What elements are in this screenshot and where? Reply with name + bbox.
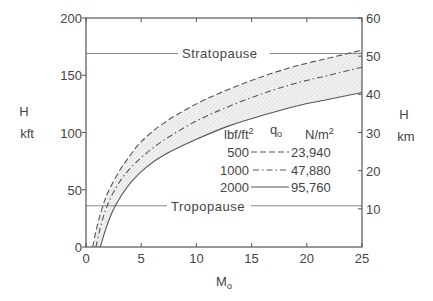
x-title-subscript: o [227, 281, 232, 291]
y-left-tick-label: 0 [75, 240, 82, 255]
tropopause-label: Tropopause [171, 199, 245, 214]
y-left-tick-label: 50 [68, 183, 82, 198]
legend-title-subscript: o [277, 129, 282, 139]
y-right-tick-label: 30 [366, 126, 380, 141]
legend-entry-500-right: 23,940 [291, 145, 331, 160]
chart: StratopauseTropopause 0510152025 0501001… [0, 0, 433, 301]
y-left-tick-label: 100 [60, 126, 82, 141]
stratopause-label: Stratopause [182, 46, 258, 61]
y-right-tick-label: 50 [366, 49, 380, 64]
x-tick-label: 15 [244, 251, 258, 266]
y-right-tick-label: 60 [366, 11, 380, 26]
x-tick-label: 10 [189, 251, 203, 266]
legend-entry-2000-right: 95,760 [291, 180, 331, 195]
y-right-title-unit: km [397, 129, 414, 144]
x-title-symbol: M [216, 274, 227, 289]
x-tick-label: 5 [138, 251, 145, 266]
y-right-ticks-layer: 102030405060 [358, 11, 380, 217]
y-left-ticks-layer: 050100150200 [60, 11, 86, 255]
y-left-tick-label: 200 [60, 11, 82, 26]
y-right-tick-label: 10 [366, 202, 380, 217]
legend-title-symbol: q [270, 122, 277, 137]
y-left-tick-label: 150 [60, 68, 82, 83]
legend: qo lbf/ft2 N/m2 500 23,940 1000 47,880 2… [220, 122, 334, 195]
x-tick-label: 20 [300, 251, 314, 266]
legend-entry-1000-right: 47,880 [291, 163, 331, 178]
legend-header-left: lbf/ft2 [224, 126, 254, 142]
legend-entry-500-left: 500 [227, 145, 249, 160]
y-right-title-symbol: H [399, 107, 408, 122]
y-left-title-symbol: H [19, 104, 28, 119]
y-right-tick-label: 20 [366, 164, 380, 179]
legend-header-right-sup: 2 [329, 126, 334, 136]
x-tick-label: 25 [355, 251, 369, 266]
legend-header-left-unit: lbf/ft [224, 127, 249, 142]
x-tick-label: 0 [82, 251, 89, 266]
legend-entry-2000-left: 2000 [220, 180, 249, 195]
legend-header-right: N/m2 [305, 126, 334, 142]
legend-title: qo [270, 122, 282, 139]
legend-header-left-sup: 2 [249, 126, 254, 136]
y-left-title-unit: kft [20, 126, 34, 141]
legend-header-right-unit: N/m [305, 127, 329, 142]
y-right-tick-label: 40 [366, 87, 380, 102]
legend-entry-1000-left: 1000 [220, 163, 249, 178]
x-title: Mo [216, 274, 232, 291]
